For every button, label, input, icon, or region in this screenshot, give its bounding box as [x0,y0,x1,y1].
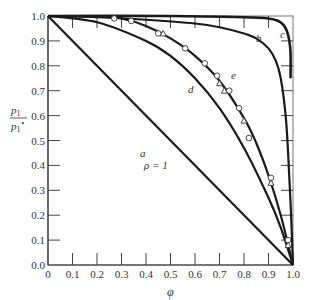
circle-marker [214,73,220,79]
y-tick-label: 0.8 [31,60,45,72]
circle-marker [182,46,188,52]
y-tick-label: 0.2 [31,209,45,221]
x-tick-label: 0.3 [115,268,129,280]
x-tick-label: 0.1 [66,268,80,280]
y-tick-label: 0.5 [31,135,45,147]
x-tick-label: 0.2 [90,268,104,280]
x-tick-label: 0.5 [164,268,178,280]
circle-marker [202,61,208,67]
y-tick-label: 0.1 [31,234,45,246]
curve-e [97,16,293,265]
curve-label-c: c [280,28,285,40]
y-tick-label: 0.4 [31,159,45,171]
circle-marker [246,135,252,141]
curve-label-e: e [231,69,236,81]
x-axis-title: φ [167,285,174,299]
x-tick-label: 0.8 [237,268,251,280]
curve-c [48,16,291,78]
x-tick-label: 0 [45,268,51,280]
x-tick-label: 0.4 [139,268,153,280]
y-tick-label: 0.3 [31,184,45,196]
circle-marker [236,105,242,111]
curves [48,16,293,265]
y-tick-label: 0.7 [31,85,45,97]
rho-annotation: ρ = 1 [143,159,168,171]
y-tick-label: 0.0 [31,259,45,271]
curve-label-d: d [188,83,194,95]
y-axis-superscript: ∘ [21,119,25,125]
triangle-marker [268,180,274,186]
x-tick-label: 1.0 [286,268,300,280]
y-axis-title: p1 p1 ∘ [10,104,27,134]
chart-canvas: 00.10.20.30.40.50.60.70.80.91.00.00.10.2… [0,0,311,300]
x-tick-label: 0.7 [213,268,227,280]
x-tick-label: 0.6 [188,268,202,280]
axis-ticks: 00.10.20.30.40.50.60.70.80.91.00.00.10.2… [31,10,300,280]
y-axis-denominator: p1 [10,120,21,134]
circle-marker [129,18,135,24]
curve-label-a: a [140,147,146,159]
circle-marker [111,16,117,22]
curve-label-b: b [256,32,262,44]
y-axis-numerator: p1 [10,104,21,118]
y-tick-label: 0.6 [31,110,45,122]
x-tick-label: 0.9 [262,268,276,280]
data-markers [111,16,291,248]
y-tick-label: 1.0 [31,10,45,22]
y-tick-label: 0.9 [31,35,45,47]
